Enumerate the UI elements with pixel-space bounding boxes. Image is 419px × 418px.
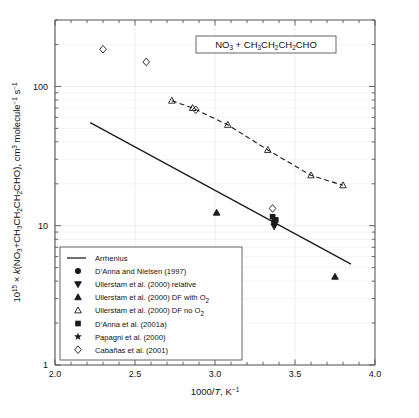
y-tick-label: 1 xyxy=(43,360,48,370)
x-tick-label: 2.0 xyxy=(49,369,62,379)
legend-item-label: Ullerstam et al. (2000) relative xyxy=(95,280,196,289)
legend-item-label: Ullerstam et al. (2000) DF no O2 xyxy=(95,306,205,316)
legend-item-label: Papagni et al. (2000) xyxy=(95,333,166,342)
filled-square-marker xyxy=(75,321,81,327)
legend-item-label: Cabañas et al. (2001) xyxy=(95,346,169,355)
legend-border xyxy=(60,247,242,360)
arrhenius-plot: 2.02.53.03.54.01101001000/T, K−11015 × k… xyxy=(0,0,419,418)
legend-marker xyxy=(75,321,81,327)
y-tick-label: 10 xyxy=(38,221,48,231)
legend-item-label: D’Anna et al. (2001a) xyxy=(95,320,167,329)
filled-circle-marker xyxy=(75,268,81,274)
legend-marker xyxy=(75,268,81,274)
x-tick-label: 3.0 xyxy=(209,369,222,379)
legend-item-label: Arrhenius xyxy=(95,254,128,263)
x-tick-label: 4.0 xyxy=(369,369,382,379)
legend-item-label: Ullerstam et al. (2000) DF with O2 xyxy=(95,293,210,303)
x-tick-label: 2.5 xyxy=(129,369,142,379)
figure-container: 2.02.53.03.54.01101001000/T, K−11015 × k… xyxy=(0,0,419,418)
title-box: NO3 + CH3CH2CH2CHO xyxy=(196,36,336,53)
legend: ArrheniusD’Anna and Nielsen (1997)Ullers… xyxy=(60,247,242,360)
x-tick-label: 3.5 xyxy=(289,369,302,379)
y-tick-label: 100 xyxy=(33,82,48,92)
legend-item-label: D’Anna and Nielsen (1997) xyxy=(95,267,187,276)
figure-caption xyxy=(0,412,419,418)
